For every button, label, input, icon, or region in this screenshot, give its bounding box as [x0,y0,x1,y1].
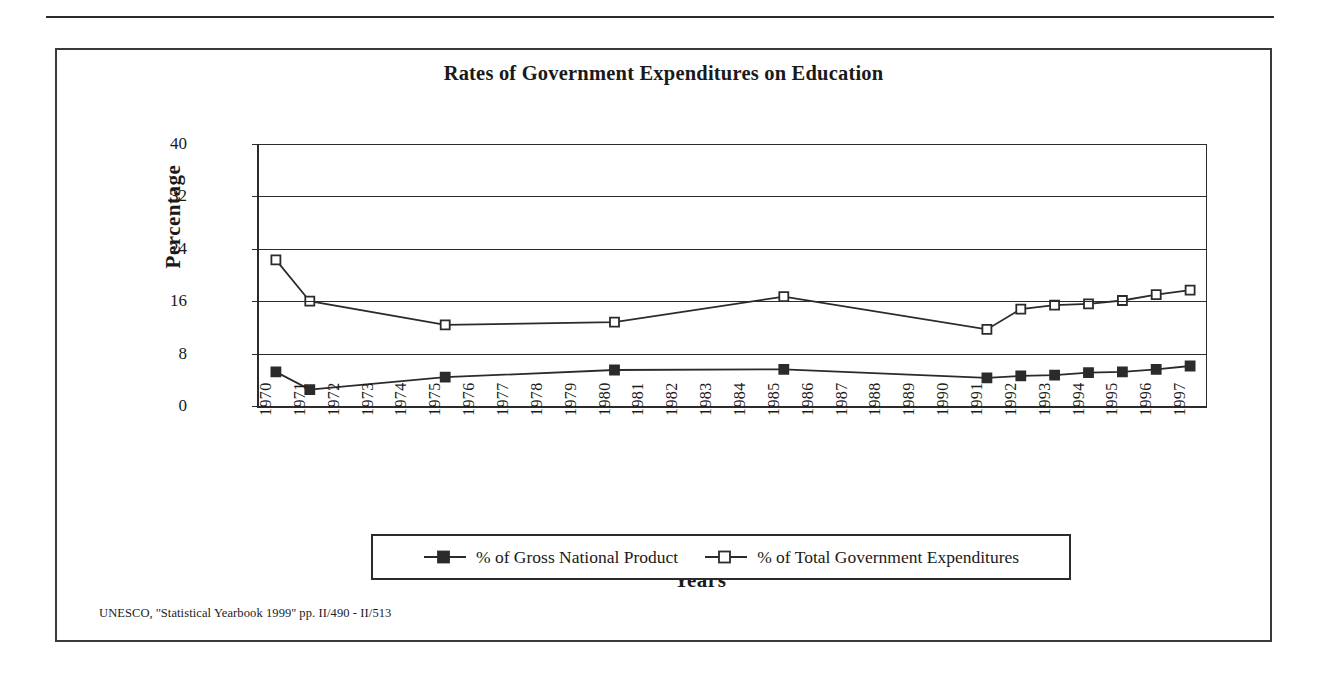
x-axis-tick-label: 1983 [697,382,715,416]
filled-square-marker [271,367,280,376]
filled-square-marker [1050,371,1059,380]
chart-title: Rates of Government Expenditures on Educ… [57,62,1270,85]
y-axis-tick [252,249,261,250]
x-axis-tick-label: 1991 [968,382,986,416]
open-square-marker [982,325,991,334]
y-axis-tick [252,354,261,355]
x-axis-tick-label: 1972 [325,382,343,416]
x-axis-tick-label: 1990 [934,382,952,416]
x-axis-tick-label: 1971 [291,382,309,416]
y-axis-tick-label: 40 [170,134,187,154]
x-axis-tick-label: 1985 [765,382,783,416]
y-axis-tick-label: 32 [170,186,187,206]
series-line [276,260,1190,330]
legend-label: % of Gross National Product [476,547,678,568]
x-axis-tick-label: 1976 [460,382,478,416]
x-axis-tick-label: 1975 [426,382,444,416]
x-axis-tick-label: 1996 [1137,382,1155,416]
filled-square-marker [423,549,467,565]
legend-label: % of Total Government Expenditures [757,547,1019,568]
filled-square-marker [1152,365,1161,374]
y-axis-tick-label: 8 [179,344,188,364]
x-axis-tick-label: 1974 [392,382,410,416]
filled-square-marker [1186,362,1195,371]
legend-entry[interactable]: % of Gross National Product [423,547,678,568]
gridline [259,196,1207,197]
filled-square-marker [1084,368,1093,377]
open-square-marker [271,255,280,264]
x-axis-tick-label: 1970 [257,382,275,416]
gridline [259,144,1207,145]
x-axis-tick-label: 1984 [731,382,749,416]
x-axis-tick-label: 1979 [562,382,580,416]
x-axis-tick-label: 1995 [1103,382,1121,416]
x-axis-tick-label: 1978 [528,382,546,416]
open-square-marker [1016,305,1025,314]
open-square-marker [1186,286,1195,295]
x-axis-tick-label: 1997 [1171,382,1189,416]
x-axis-tick-labels: 1970197119721973197419751976197719781979… [257,410,1205,490]
filled-square-marker [1118,367,1127,376]
open-square-marker [704,549,748,565]
y-axis-tick-labels: 0816243240 [147,144,187,406]
series-layer [259,144,1207,406]
filled-square-marker [779,365,788,374]
filled-square-marker [1016,371,1025,380]
open-square-marker [441,320,450,329]
figure-container: Rates of Government Expenditures on Educ… [55,48,1272,642]
open-square-marker [1152,290,1161,299]
y-axis-tick [252,196,261,197]
x-axis-tick-label: 1982 [663,382,681,416]
x-axis-tick-label: 1986 [799,382,817,416]
y-axis-tick-label: 0 [179,396,188,416]
y-axis-tick-label: 16 [170,291,187,311]
y-axis-tick [252,301,261,302]
chart-legend: % of Gross National Product% of Total Go… [371,534,1071,580]
x-axis-tick-label: 1987 [833,382,851,416]
gridline [259,301,1207,302]
gridline [259,249,1207,250]
x-axis-tick-label: 1988 [866,382,884,416]
x-axis-tick-label: 1992 [1002,382,1020,416]
x-axis-tick-label: 1980 [596,382,614,416]
filled-square-marker [982,373,991,382]
x-axis-tick-label: 1989 [900,382,918,416]
filled-square-marker [441,373,450,382]
plot-area [257,144,1207,408]
y-axis-tick-label: 24 [170,239,187,259]
x-axis-tick-label: 1973 [359,382,377,416]
y-axis-tick [252,144,261,145]
source-note: UNESCO, ''Statistical Yearbook 1999'' pp… [99,606,391,621]
filled-square-marker [610,366,619,375]
open-square-marker [779,292,788,301]
plot-wrapper: Percentage 0816243240 197019711972197319… [195,144,1205,406]
x-axis-tick-label: 1994 [1070,382,1088,416]
x-axis-tick-label: 1993 [1036,382,1054,416]
open-square-marker [610,318,619,327]
legend-entry[interactable]: % of Total Government Expenditures [704,547,1019,568]
x-axis-tick-label: 1981 [629,382,647,416]
page-top-rule [46,16,1274,18]
gridline [259,354,1207,355]
x-axis-tick-label: 1977 [494,382,512,416]
